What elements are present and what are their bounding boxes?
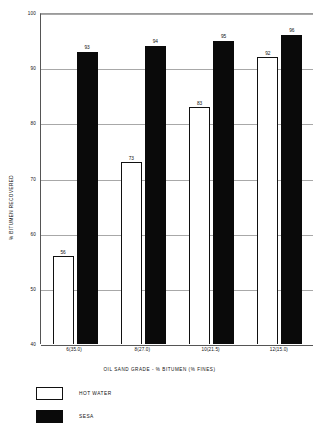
x-axis-tick-label: 8(27.0)	[135, 347, 151, 352]
y-axis-tick-label: 50	[30, 286, 36, 291]
legend-swatch-sesa	[36, 410, 63, 423]
y-axis-tick-label: 90	[30, 66, 36, 71]
bar-value-label: 73	[129, 156, 134, 161]
bar-value-label: 93	[84, 45, 89, 50]
bar-value-label: 94	[153, 39, 158, 44]
bar-hot-water: 73	[121, 162, 142, 344]
chart-legend: HOT WATERSESA	[36, 385, 236, 431]
bar-sesa: 96	[281, 35, 302, 344]
legend-item: SESA	[36, 408, 236, 424]
bar-hot-water: 83	[189, 107, 210, 344]
gridline	[41, 345, 313, 346]
bar-value-label: 56	[60, 250, 65, 255]
x-axis-title: OIL SAND GRADE - % BITUMEN (% FINES)	[0, 367, 319, 372]
y-axis-tick-label: 40	[30, 342, 36, 347]
gridline	[41, 14, 313, 15]
x-axis-tick-label: 12(15.0)	[270, 347, 288, 352]
x-axis-tick-label: 10(21.5)	[201, 347, 219, 352]
x-axis-tick-label: 6(35.0)	[66, 347, 82, 352]
x-axis-tick-labels: 6(35.0)8(27.0)10(21.5)12(15.0)	[40, 347, 313, 361]
bar-sesa: 94	[145, 46, 166, 344]
bar-sesa: 93	[77, 52, 98, 344]
legend-item: HOT WATER	[36, 385, 236, 401]
legend-label: HOT WATER	[79, 391, 112, 396]
bar-sesa: 95	[213, 41, 234, 344]
bar-value-label: 83	[197, 101, 202, 106]
bar-hot-water: 92	[257, 57, 278, 344]
bar-hot-water: 56	[53, 256, 74, 344]
plot-area: 5693739483959296	[40, 13, 313, 344]
chart-figure: 5693739483959296 100908070605040 % BITUM…	[0, 0, 319, 431]
legend-swatch-hot	[36, 387, 63, 400]
legend-label: SESA	[79, 414, 94, 419]
y-axis-tick-label: 80	[30, 121, 36, 126]
y-axis-tick-label: 100	[28, 11, 36, 16]
y-axis-tick-label: 60	[30, 231, 36, 236]
bar-value-label: 96	[289, 28, 294, 33]
bar-value-label: 92	[265, 51, 270, 56]
bar-value-label: 95	[221, 34, 226, 39]
y-axis-tick-label: 70	[30, 176, 36, 181]
y-axis-title: % BITUMEN RECOVERED	[9, 175, 14, 240]
